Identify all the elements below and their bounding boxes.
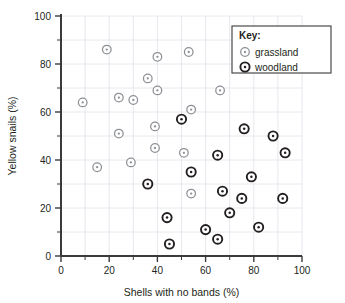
data-point-grassland[interactable] (78, 98, 87, 107)
x-tick-label: 80 (248, 265, 260, 276)
marker-center-dot (190, 171, 193, 174)
data-point-woodland[interactable] (225, 208, 234, 217)
marker-center-dot (96, 166, 98, 168)
data-point-woodland[interactable] (254, 223, 263, 232)
x-tick-label: 100 (294, 265, 311, 276)
y-axis-label: Yellow snails (%) (6, 97, 18, 176)
legend-label-woodland: woodland (254, 62, 298, 73)
legend-marker-woodland[interactable] (240, 62, 249, 71)
marker-center-dot (156, 56, 158, 58)
legend-title: Key: (239, 30, 261, 41)
data-point-grassland[interactable] (127, 158, 136, 167)
y-tick-label: 100 (34, 11, 51, 22)
marker-center-dot (188, 51, 190, 53)
data-point-grassland[interactable] (153, 86, 162, 95)
marker-center-dot (244, 51, 246, 53)
data-point-grassland[interactable] (115, 93, 124, 102)
marker-center-dot (154, 147, 156, 149)
y-tick-label: 0 (45, 251, 51, 262)
legend-marker-grassland[interactable] (241, 48, 250, 57)
marker-center-dot (250, 176, 253, 179)
marker-center-dot (106, 48, 108, 50)
data-point-grassland[interactable] (102, 45, 111, 54)
data-point-woodland[interactable] (165, 239, 174, 248)
data-point-grassland[interactable] (151, 144, 160, 153)
marker-center-dot (243, 128, 246, 131)
marker-center-dot (82, 101, 84, 103)
chart-canvas: 020406080100020406080100Shells with no b… (0, 0, 345, 303)
marker-center-dot (166, 216, 169, 219)
data-point-woodland[interactable] (281, 148, 290, 157)
marker-center-dot (204, 228, 207, 231)
data-point-grassland[interactable] (187, 105, 196, 114)
legend-label-grassland: grassland (255, 47, 298, 58)
marker-center-dot (154, 125, 156, 127)
data-point-grassland[interactable] (115, 129, 124, 138)
data-point-woodland[interactable] (213, 151, 222, 160)
marker-center-dot (168, 243, 171, 246)
data-point-woodland[interactable] (240, 124, 249, 133)
marker-center-dot (180, 118, 183, 121)
y-tick-label: 80 (40, 59, 52, 70)
marker-center-dot (272, 135, 275, 138)
data-point-woodland[interactable] (177, 115, 186, 124)
marker-center-dot (244, 66, 247, 69)
data-point-grassland[interactable] (151, 122, 160, 131)
marker-center-dot (147, 183, 150, 186)
y-tick-label: 60 (40, 107, 52, 118)
marker-center-dot (221, 190, 224, 193)
data-point-grassland[interactable] (143, 74, 152, 83)
marker-center-dot (216, 154, 219, 157)
marker-center-dot (118, 96, 120, 98)
x-tick-label: 40 (152, 265, 164, 276)
data-point-woodland[interactable] (237, 194, 246, 203)
marker-center-dot (257, 226, 260, 229)
x-axis-label: Shells with no bands (%) (124, 286, 240, 298)
x-tick-label: 20 (104, 265, 116, 276)
data-point-woodland[interactable] (278, 194, 287, 203)
marker-center-dot (183, 152, 185, 154)
marker-center-dot (228, 212, 231, 215)
data-point-woodland[interactable] (162, 213, 171, 222)
marker-center-dot (130, 161, 132, 163)
data-point-woodland[interactable] (213, 235, 222, 244)
data-point-grassland[interactable] (180, 149, 189, 158)
marker-center-dot (284, 152, 287, 155)
x-tick-label: 0 (58, 265, 64, 276)
data-point-grassland[interactable] (187, 189, 196, 198)
data-point-grassland[interactable] (93, 163, 102, 172)
data-point-woodland[interactable] (268, 131, 277, 140)
y-tick-label: 40 (40, 155, 52, 166)
marker-center-dot (156, 89, 158, 91)
data-point-woodland[interactable] (218, 187, 227, 196)
data-point-grassland[interactable] (129, 96, 138, 105)
x-tick-label: 60 (200, 265, 212, 276)
marker-center-dot (118, 132, 120, 134)
data-point-grassland[interactable] (153, 53, 162, 62)
data-point-woodland[interactable] (247, 172, 256, 181)
marker-center-dot (190, 108, 192, 110)
marker-center-dot (241, 197, 244, 200)
marker-center-dot (190, 192, 192, 194)
data-point-woodland[interactable] (201, 225, 210, 234)
data-point-grassland[interactable] (184, 48, 193, 57)
marker-center-dot (219, 89, 221, 91)
y-tick-label: 20 (40, 203, 52, 214)
legend: Key:grasslandwoodland (232, 26, 331, 73)
marker-center-dot (281, 197, 284, 200)
scatter-chart-figure: 020406080100020406080100Shells with no b… (0, 0, 345, 303)
marker-center-dot (132, 99, 134, 101)
data-point-woodland[interactable] (187, 167, 196, 176)
marker-center-dot (216, 238, 219, 241)
marker-center-dot (147, 77, 149, 79)
data-point-grassland[interactable] (216, 86, 225, 95)
data-point-woodland[interactable] (143, 179, 152, 188)
